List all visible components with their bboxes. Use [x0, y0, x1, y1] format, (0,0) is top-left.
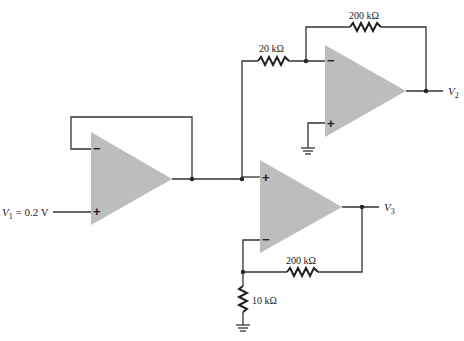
opamp-noninverting: [260, 160, 342, 253]
opamp-inverting: [325, 45, 406, 137]
wire-minus-to-node: [243, 240, 260, 272]
wire-plus-to-ground: [308, 123, 325, 148]
resistor-20k-label: 20 kΩ: [259, 43, 284, 54]
junction-node: [190, 177, 194, 181]
resistor-20k: [258, 57, 289, 65]
ground-icon: [236, 325, 250, 331]
opamp-inverting-minus: −: [327, 53, 335, 68]
opamp-buffer-plus: +: [93, 204, 101, 219]
output-v3-label: V3: [384, 201, 395, 216]
circuit-diagram: − + V1 = 0.2 V − + 20 kΩ 200 kΩ V2 + − V…: [0, 0, 464, 341]
opamp-noninverting-plus: +: [262, 170, 270, 185]
wire-to-20k: [242, 61, 258, 179]
input-label: V1 = 0.2 V: [2, 206, 49, 221]
output-v2-label: V2: [448, 85, 459, 100]
junction-node: [424, 89, 428, 93]
resistor-200k-top: [350, 23, 381, 31]
resistor-200k-bottom: [287, 268, 318, 276]
opamp-buffer: [91, 132, 172, 225]
ground-icon: [301, 148, 315, 154]
opamp-inverting-plus: +: [327, 116, 335, 131]
opamp-noninverting-minus: −: [262, 232, 270, 247]
opamp-buffer-minus: −: [93, 141, 101, 156]
resistor-200k-top-label: 200 kΩ: [349, 10, 379, 21]
resistor-10k: [239, 286, 247, 312]
resistor-10k-label: 10 kΩ: [252, 295, 277, 306]
resistor-200k-bottom-label: 200 kΩ: [286, 255, 316, 266]
